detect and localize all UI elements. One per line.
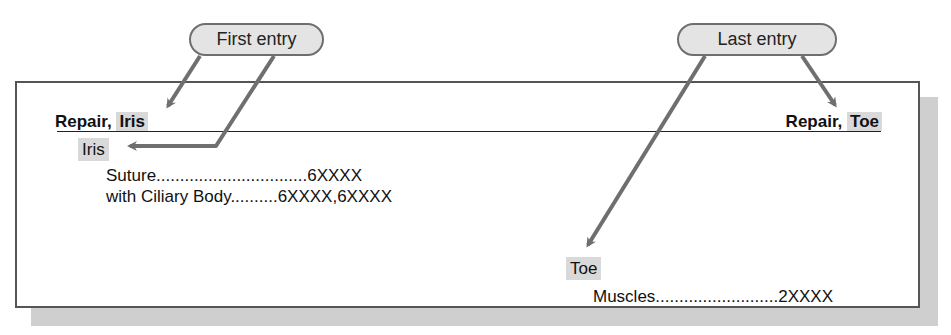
callout-arrows xyxy=(0,0,951,335)
arrow-to-main-toe xyxy=(588,56,705,245)
arrow-to-guide-toe xyxy=(802,56,835,105)
arrow-to-main-iris xyxy=(130,56,274,146)
arrow-to-guide-iris xyxy=(168,56,200,106)
